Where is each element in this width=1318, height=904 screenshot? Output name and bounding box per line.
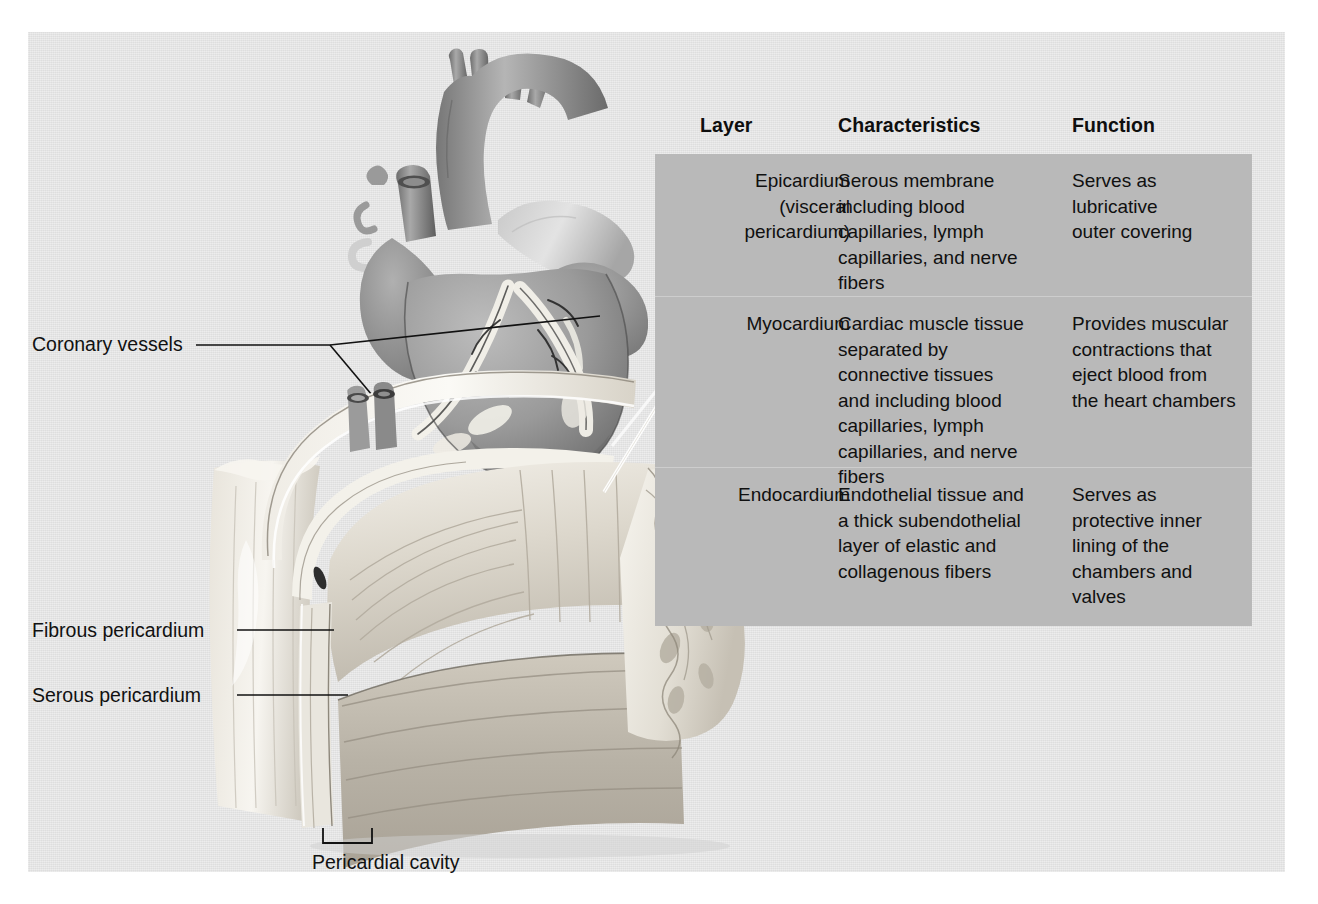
cell-function: Serves as protective inner lining of the…: [1072, 482, 1247, 610]
label-fibrous-pericardium: Fibrous pericardium: [32, 619, 204, 642]
cell-layer: Epicardium (visceral pericardium): [700, 168, 850, 245]
table-row: Endocardium Endothelial tissue and a thi…: [655, 467, 1252, 626]
label-pericardial-cavity: Pericardial cavity: [312, 851, 459, 874]
cell-layer: Myocardium: [700, 311, 850, 337]
column-header-characteristics: Characteristics: [838, 114, 980, 137]
table-row: Myocardium Cardiac muscle tissue separat…: [655, 296, 1252, 467]
label-serous-pericardium: Serous pericardium: [32, 684, 201, 707]
cell-characteristics: Serous membrane including blood capillar…: [838, 168, 1066, 296]
table-body: Epicardium (visceral pericardium) Serous…: [655, 154, 1252, 626]
table-row: Epicardium (visceral pericardium) Serous…: [655, 154, 1252, 296]
heart-wall-layers-table: Layer Characteristics Function Epicardiu…: [655, 108, 1252, 626]
cell-layer: Endocardium: [700, 482, 850, 508]
label-coronary-vessels: Coronary vessels: [32, 333, 183, 356]
column-header-layer: Layer: [700, 114, 753, 137]
cell-characteristics: Endothelial tissue and a thick subendoth…: [838, 482, 1066, 584]
table-header-row: Layer Characteristics Function: [655, 108, 1252, 154]
cell-characteristics: Cardiac muscle tissue separated by conne…: [838, 311, 1066, 490]
cell-function: Serves as lubricative outer covering: [1072, 168, 1247, 245]
cell-function: Provides muscular contractions that ejec…: [1072, 311, 1247, 413]
column-header-function: Function: [1072, 114, 1155, 137]
